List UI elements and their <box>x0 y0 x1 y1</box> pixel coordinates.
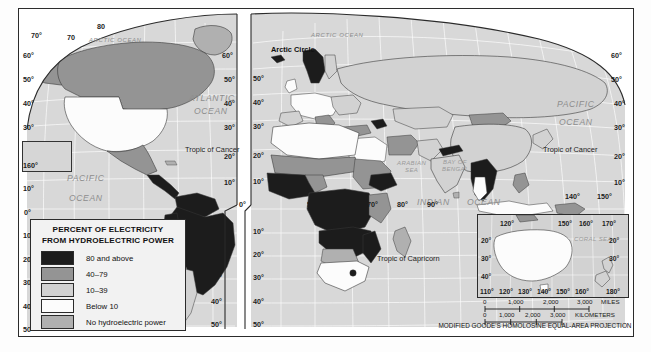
inset-lon-bot-140: 140° <box>537 288 551 295</box>
ocean-label-arctic-left: ARCTIC OCEAN <box>88 37 142 43</box>
lat-label-r-10: 10° <box>614 178 625 187</box>
legend-title: PERCENT OF ELECTRICITY FROM HYDROELECTRI… <box>37 225 179 246</box>
inset-lon-bot-150: 150° <box>556 288 570 295</box>
legend-title-line2: FROM HYDROELECTRIC POWER <box>37 236 179 247</box>
ocean-label-pacific-right-2: OCEAN <box>559 117 593 127</box>
scale-miles-tick-0: 0 <box>483 300 487 305</box>
legend-swatch-below-10 <box>41 299 74 313</box>
lat-label-il-40: 40° <box>224 99 235 108</box>
lon-label-140: 140° <box>565 192 580 201</box>
inset-lat-left-30: 30° <box>481 255 492 262</box>
lon-label-0: 0° <box>239 200 246 209</box>
legend-swatch-no-hydro <box>41 315 74 329</box>
lat-label-r-60: 60° <box>611 51 622 60</box>
sea-label-arabian-2: SEA <box>405 167 418 173</box>
lat-label-l-70: 70° <box>31 31 42 40</box>
country-lesotho[interactable] <box>350 270 356 276</box>
ocean-label-pacific-right-1: PACIFIC <box>557 99 595 109</box>
lat-label-l-40: 40° <box>23 99 34 108</box>
lat-label-il-20: 20° <box>224 152 235 161</box>
label-arctic-circle: Arctic Circle <box>271 45 315 54</box>
lat-label-il-20s: 20° <box>211 250 222 259</box>
lon-label-150: 150° <box>597 192 612 201</box>
ocean-label-atlantic-2: OCEAN <box>194 106 228 116</box>
legend-label-10-39: 10–39 <box>86 286 108 295</box>
ocean-label-pacific-left-1: PACIFIC <box>67 173 105 183</box>
scale-km-tick-1: 1,000 <box>499 311 515 318</box>
lat-label-ir-50: 50° <box>253 74 264 83</box>
sea-label-bengal-2: BENGAL <box>442 166 469 172</box>
inset-lon-top-170: 170° <box>602 220 616 227</box>
inset-lat-left-20: 20° <box>481 237 492 244</box>
lat-label-ir-20s: 20° <box>253 250 264 259</box>
lat-label-l-50: 50° <box>23 75 34 84</box>
inset-lon-top-160: 160° <box>579 220 593 227</box>
legend-label-no-hydro: No hydroelectric power <box>86 318 166 327</box>
legend-label-below-10: Below 10 <box>86 302 118 311</box>
ocean-label-pacific-left-2: OCEAN <box>69 193 103 203</box>
scale-miles-tick-1: 1,000 <box>508 300 524 305</box>
inset-lon-bot-160: 160° <box>575 288 589 295</box>
projection-note: MODIFIED GOODE'S HOMOLOSINE EQUAL-AREA P… <box>437 322 633 329</box>
map-legend: PERCENT OF ELECTRICITY FROM HYDROELECTRI… <box>30 219 186 331</box>
lat-label-il-60: 60° <box>222 51 233 60</box>
scale-miles-unit: MILES <box>601 300 620 305</box>
lon-label-top-80: 80 <box>97 22 105 31</box>
lon-label-70: 70° <box>367 200 378 209</box>
lon-label-50: 50° <box>307 200 318 209</box>
inset-lon-bot-130: 130° <box>518 288 532 295</box>
legend-label-40-79: 40–79 <box>86 270 108 279</box>
region-caribbean[interactable] <box>165 161 177 165</box>
legend-swatch-40-79 <box>41 267 74 281</box>
lon-label-80: 80° <box>397 200 408 209</box>
legend-item-80-plus[interactable]: 80 and above <box>37 250 179 266</box>
lat-label-l-30: 30° <box>23 123 34 132</box>
legend-item-40-79[interactable]: 40–79 <box>37 266 179 282</box>
lat-label-r-50: 50° <box>611 75 622 84</box>
lat-label-ir-10s: 10° <box>253 227 264 236</box>
inset-sea-label-coral: CORAL SEA <box>574 236 612 242</box>
legend-item-no-hydro[interactable]: No hydroelectric power <box>37 314 179 330</box>
inset-map-svg[interactable]: CORAL SEA 120° 150° 160° 170° 20° 30° 40… <box>478 215 628 297</box>
lat-label-l-0: 0° <box>24 208 31 217</box>
inset-lat-left-40: 40° <box>481 273 492 280</box>
hawaii-inset-lon-label: 160° <box>23 161 38 170</box>
lat-label-ir-50s: 50° <box>253 320 264 329</box>
legend-item-below-10[interactable]: Below 10 <box>37 298 179 314</box>
legend-label-80-plus: 80 and above <box>86 254 133 263</box>
sea-label-bengal-1: BAY OF <box>443 159 467 165</box>
inset-lat-right-20: 20° <box>609 237 620 244</box>
country-sri-lanka[interactable] <box>453 192 459 198</box>
label-tropic-cancer-right: Tropic of Cancer <box>543 145 598 154</box>
lat-label-ir-40: 40° <box>253 98 264 107</box>
inset-lat-right-30: 30° <box>609 255 620 262</box>
lon-label-90: 90° <box>427 200 438 209</box>
legend-item-10-39[interactable]: 10–39 <box>37 282 179 298</box>
lat-label-il-40s: 40° <box>211 297 222 306</box>
ocean-label-indian-2: OCEAN <box>467 197 501 207</box>
lat-label-r-40: 40° <box>614 99 625 108</box>
scale-km-tick-3: 3,000 <box>550 311 566 318</box>
lat-label-il-30s: 30° <box>211 273 222 282</box>
lat-label-l-60: 60° <box>23 51 34 60</box>
lat-label-ir-30: 30° <box>253 122 264 131</box>
lat-label-r-20: 20° <box>614 152 625 161</box>
lon-label-top-70: 70 <box>67 33 75 42</box>
inset-lon-top-150: 150° <box>558 220 572 227</box>
legend-swatch-10-39 <box>41 283 74 297</box>
lon-label-60: 60° <box>337 200 348 209</box>
lat-label-il-50s: 50° <box>211 320 222 329</box>
hydroelectric-world-map-figure: ARCTIC OCEAN ATLANTIC OCEAN PACIFIC OCEA… <box>0 0 651 352</box>
ocean-label-arctic-right: ARCTIC OCEAN <box>310 32 364 38</box>
sea-label-arabian-1: ARABIAN <box>396 160 426 166</box>
scale-km-tick-0: 0 <box>483 311 487 318</box>
lat-label-ir-40s: 40° <box>253 297 264 306</box>
inset-lon-bot-120: 120° <box>499 288 513 295</box>
label-tropic-capricorn: Tropic of Capricorn <box>377 254 440 263</box>
lat-label-il-10: 10° <box>224 178 235 187</box>
scale-miles-tick-2: 2,000 <box>543 300 559 305</box>
inset-lon-bot-180: 180° <box>606 288 620 295</box>
lat-label-ir-10: 10° <box>253 177 264 186</box>
australia-inset-map[interactable]: CORAL SEA 120° 150° 160° 170° 20° 30° 40… <box>477 214 629 298</box>
lat-label-ir-30s: 30° <box>253 273 264 282</box>
